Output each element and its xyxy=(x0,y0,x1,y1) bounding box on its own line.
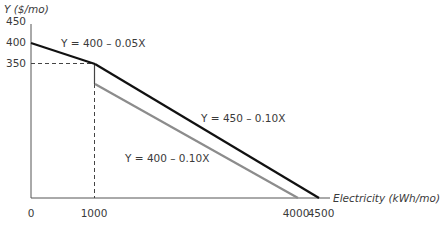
x-tick-4500: 4500 xyxy=(303,208,339,219)
y-axis-title: Y ($/mo) xyxy=(4,4,49,15)
y-tick-450: 450 xyxy=(2,16,26,27)
x-tick-1000: 1000 xyxy=(76,208,112,219)
equation-label-2: Y = 450 – 0.10X xyxy=(201,113,285,124)
equation-label-1: Y = 400 – 0.05X xyxy=(61,38,145,49)
y-tick-350: 350 xyxy=(2,58,26,69)
series-y-450-010x xyxy=(95,64,319,198)
x-tick-0: 0 xyxy=(24,208,38,219)
y-tick-400: 400 xyxy=(2,37,26,48)
equation-label-3: Y = 400 – 0.10X xyxy=(125,153,209,164)
series-y-400-010x xyxy=(95,84,298,198)
x-axis-title: Electricity (kWh/mo) xyxy=(333,193,440,204)
